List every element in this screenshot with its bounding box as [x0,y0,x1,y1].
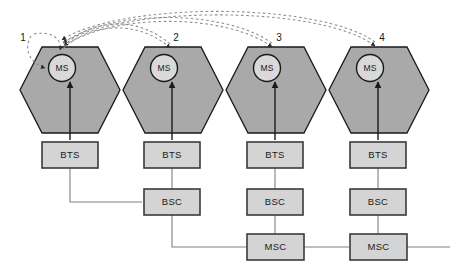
msc-node-4[interactable]: MSC [350,234,407,260]
link-bts1-bsc2 [70,168,142,202]
cell-2-ms-label: MS [157,63,170,73]
bsc-4-label: BSC [368,196,388,207]
bts-4-label: BTS [368,149,387,160]
cell-1-group: MS 1 [20,32,120,140]
bts-node-1[interactable]: BTS [42,142,98,168]
bsc-row: BSC BSC BSC [144,189,406,215]
bts-2-label: BTS [162,149,181,160]
bts-node-2[interactable]: BTS [144,142,200,168]
bsc-node-3[interactable]: BSC [247,189,303,215]
cell-3-group: MS 3 [226,32,326,140]
diagram-canvas: MS 1 MS 2 MS 3 MS 4 [0,0,450,269]
bsc-2-label: BSC [162,196,182,207]
cell-1-ms-label: MS [55,63,68,73]
msc-node-3[interactable]: MSC [247,234,304,260]
cell-3-ms-label: MS [260,63,273,73]
handover-arc-2-to-1 [64,24,170,46]
bts-1-label: BTS [60,149,79,160]
bts-3-label: BTS [265,149,284,160]
msc-3-label: MSC [264,241,286,252]
bts-row: BTS BTS BTS BTS [42,142,406,168]
bts-node-4[interactable]: BTS [350,142,406,168]
handover-arc-1-to-3 [64,21,272,47]
bsc-node-4[interactable]: BSC [350,189,406,215]
cell-4-ms-label: MS [363,63,376,73]
cell-1-number: 1 [20,32,26,43]
bts-node-3[interactable]: BTS [247,142,303,168]
cell-3-number: 3 [276,32,282,43]
bsc-3-label: BSC [265,196,285,207]
bsc-node-2[interactable]: BSC [144,189,200,215]
handover-arc-1-to-4 [63,15,375,46]
cell-4-number: 4 [379,32,385,43]
cell-2-group: MS 2 [123,32,223,140]
network-diagram: MS 1 MS 2 MS 3 MS 4 [0,0,450,269]
handover-arc-4-to-1 [62,11,375,42]
handover-arc-3-to-1 [63,17,272,43]
cell-4-group: MS 4 [329,32,429,140]
cell-2-number: 2 [173,32,179,43]
link-bsc2-msc3 [172,215,246,247]
msc-4-label: MSC [367,241,389,252]
